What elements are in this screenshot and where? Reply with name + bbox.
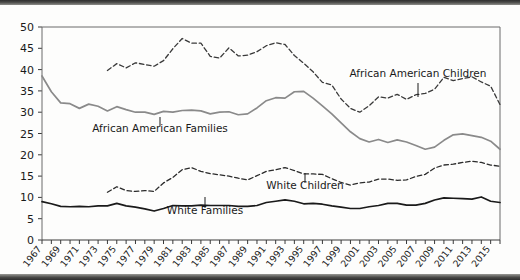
x-axis-tick-group: 1967196919711973197519771979198119831985… — [20, 240, 500, 269]
series-line — [42, 76, 500, 149]
page-bottom-edge — [0, 274, 520, 280]
x-axis-tick-label: 1967 — [20, 243, 43, 268]
x-axis-tick-label: 1975 — [95, 243, 118, 268]
y-axis-tick-label: 10 — [20, 191, 34, 204]
y-axis-tick-label: 30 — [20, 106, 34, 119]
x-axis-tick-label: 1997 — [301, 243, 324, 268]
chart-canvas: 05101520253035404550 1967196919711973197… — [0, 5, 520, 274]
y-axis-tick-label: 15 — [20, 170, 34, 183]
x-axis-tick-label: 2005 — [376, 243, 399, 268]
annotation-group: African American FamiliesAfrican America… — [92, 67, 486, 216]
x-axis-tick-label: 1985 — [189, 243, 212, 268]
y-axis-tick-label: 45 — [20, 42, 34, 55]
x-axis-tick-label: 1977 — [114, 243, 137, 268]
x-axis-tick-label: 1971 — [58, 243, 81, 268]
x-axis-tick-label: 1983 — [170, 243, 193, 268]
poverty-rate-chart: 05101520253035404550 1967196919711973197… — [0, 5, 520, 274]
x-axis-tick-label: 1993 — [263, 243, 286, 268]
y-axis-tick-label: 35 — [20, 85, 34, 98]
y-axis-tick-group: 05101520253035404550 — [20, 21, 42, 247]
series-label: White Families — [167, 204, 243, 216]
y-axis-tick-label: 50 — [20, 21, 34, 34]
x-axis-tick-label: 1969 — [39, 243, 62, 268]
x-axis-tick-label: 1973 — [76, 243, 99, 268]
x-axis-tick-label: 1995 — [282, 243, 305, 268]
x-axis-tick-label: 1987 — [207, 243, 230, 268]
x-axis-tick-label: 2015 — [469, 243, 492, 268]
x-axis-tick-label: 1989 — [226, 243, 249, 268]
y-axis-tick-label: 40 — [20, 64, 34, 77]
y-axis-tick-label: 5 — [27, 213, 34, 226]
x-axis-tick-label: 2003 — [357, 243, 380, 268]
x-axis-tick-label: 1979 — [132, 243, 155, 268]
x-axis-tick-label: 2013 — [450, 243, 473, 268]
figure-page: 05101520253035404550 1967196919711973197… — [0, 0, 520, 280]
x-axis-tick-label: 2011 — [432, 243, 455, 268]
x-axis-tick-label: 1991 — [245, 243, 268, 268]
y-axis-tick-label: 25 — [20, 128, 34, 141]
x-axis-tick-label: 2007 — [394, 243, 417, 268]
series-label: White Children — [266, 179, 344, 191]
x-axis-tick-label: 2001 — [338, 243, 361, 268]
series-label: African American Children — [350, 67, 487, 79]
x-axis-tick-label: 1981 — [151, 243, 174, 268]
series-line — [42, 197, 500, 211]
y-axis-tick-label: 20 — [20, 149, 34, 162]
series-label: African American Families — [92, 122, 228, 134]
x-axis-tick-label: 1999 — [319, 243, 342, 268]
x-axis-tick-label: 2009 — [413, 243, 436, 268]
